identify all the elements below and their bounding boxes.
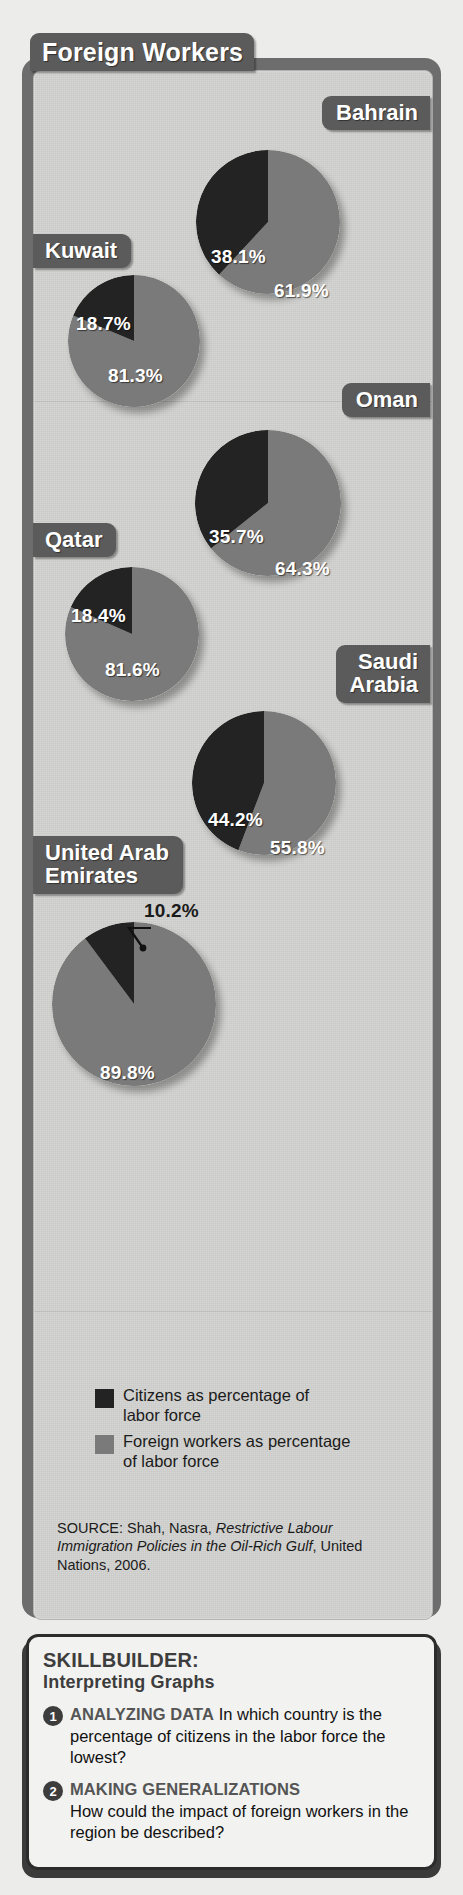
pie-value-foreign-uae: 89.8%	[100, 1062, 155, 1084]
pie-value-foreign-saudi: 55.8%	[270, 837, 325, 859]
pie-value-foreign-oman: 64.3%	[275, 558, 330, 580]
pie-chart-qatar: 18.4%81.6%	[65, 567, 199, 701]
pie-kuwait	[68, 275, 200, 407]
skillbuilder-category-1: ANALYZING DATA	[70, 1705, 214, 1723]
pie-value-citizens-saudi: 44.2%	[208, 809, 263, 831]
callout-line-uae	[107, 910, 227, 980]
skillbuilder-question-2: How could the impact of foreign workers …	[70, 1801, 420, 1844]
skillbuilder-title-line1: SKILLBUILDER:	[43, 1649, 420, 1672]
country-label-uae: United Arab Emirates	[33, 836, 183, 894]
pie-value-foreign-bahrain: 61.9%	[274, 280, 329, 302]
infographic-page: Foreign Workers Bahrain38.1%61.9%Kuwait1…	[0, 0, 463, 1895]
skillbuilder-item-1: 1 ANALYZING DATA In which country is the…	[43, 1704, 420, 1768]
skillbuilder-title: SKILLBUILDER: Interpreting Graphs	[43, 1649, 420, 1693]
chart-title-banner: Foreign Workers	[30, 33, 254, 71]
pie-value-citizens-bahrain: 38.1%	[211, 246, 266, 268]
country-label-qatar: Qatar	[33, 523, 116, 557]
country-label-bahrain: Bahrain	[322, 96, 430, 130]
legend-swatch-foreign-workers	[95, 1435, 114, 1454]
country-label-saudi: Saudi Arabia	[336, 645, 430, 703]
pie-value-citizens-qatar: 18.4%	[71, 605, 126, 627]
pie-value-foreign-qatar: 81.6%	[105, 659, 160, 681]
pie-chart-uae: 10.2%89.8%	[52, 922, 216, 1086]
legend-label-citizens: Citizens as percentage of labor force	[123, 1386, 309, 1425]
skillbuilder-number-2: 2	[43, 1781, 63, 1801]
skillbuilder-title-line2: Interpreting Graphs	[43, 1672, 420, 1693]
legend-item-citizens: Citizens as percentage of labor force	[95, 1386, 395, 1425]
skillbuilder-item-2: 2 MAKING GENERALIZATIONS How could the i…	[43, 1779, 420, 1843]
source-prefix: SOURCE: Shah, Nasra,	[57, 1520, 216, 1536]
skillbuilder-body-1: ANALYZING DATA In which country is the p…	[70, 1704, 420, 1768]
legend-label-foreign-workers: Foreign workers as percentage of labor f…	[123, 1432, 350, 1471]
pie-chart-bahrain: 38.1%61.9%	[196, 150, 340, 294]
legend-swatch-citizens	[95, 1389, 114, 1408]
source-citation: SOURCE: Shah, Nasra, Restrictive Labour …	[57, 1519, 397, 1574]
country-label-oman: Oman	[342, 383, 430, 417]
skillbuilder-number-1: 1	[43, 1706, 63, 1726]
skillbuilder-box: SKILLBUILDER: Interpreting Graphs 1 ANAL…	[26, 1634, 437, 1870]
pie-oman	[195, 430, 341, 576]
pie-chart-kuwait: 18.7%81.3%	[68, 275, 200, 407]
pie-bahrain	[196, 150, 340, 294]
country-label-kuwait: Kuwait	[33, 234, 131, 268]
skillbuilder-category-2: MAKING GENERALIZATIONS	[70, 1779, 420, 1800]
page-title: Foreign Workers	[42, 38, 243, 67]
pie-chart-saudi: 44.2%55.8%	[192, 711, 336, 855]
pie-saudi	[192, 711, 336, 855]
pie-value-citizens-oman: 35.7%	[209, 526, 264, 548]
legend-item-foreign-workers: Foreign workers as percentage of labor f…	[95, 1432, 395, 1471]
pie-chart-oman: 35.7%64.3%	[195, 430, 341, 576]
pie-value-citizens-kuwait: 18.7%	[76, 313, 131, 335]
chart-legend: Citizens as percentage of labor force Fo…	[95, 1386, 395, 1479]
skillbuilder-body-2: MAKING GENERALIZATIONS How could the imp…	[70, 1779, 420, 1843]
pie-value-foreign-kuwait: 81.3%	[108, 365, 163, 387]
